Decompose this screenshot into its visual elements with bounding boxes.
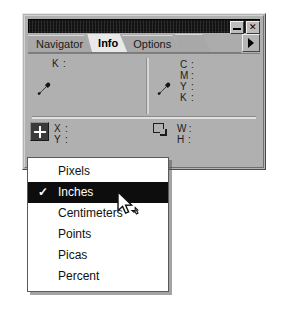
field-w-colon: :	[189, 123, 192, 134]
menu-item-picas[interactable]: Picas	[28, 245, 168, 266]
field-k-primary-label: K	[52, 58, 61, 69]
field-c-colon: :	[191, 59, 194, 70]
triangle-right-icon	[248, 38, 254, 48]
field-w: W:	[177, 123, 192, 134]
eyedropper-icon-primary	[32, 78, 54, 100]
field-m-colon: :	[191, 70, 194, 81]
field-h: H:	[177, 134, 192, 145]
menu-item-picas-label: Picas	[58, 248, 87, 262]
menu-item-pixels[interactable]: Pixels	[28, 161, 168, 182]
field-x-label: X	[54, 123, 63, 134]
field-y-pos: Y:	[54, 134, 68, 145]
field-h-colon: :	[188, 134, 191, 145]
units-dropdown-menu: Pixels ✓ Inches Centimeters Points Picas…	[27, 157, 169, 292]
menu-item-points-label: Points	[58, 227, 91, 241]
size-fields: W: H:	[177, 122, 192, 145]
menu-item-points[interactable]: Points	[28, 224, 168, 245]
field-k-primary-colon: :	[63, 58, 66, 69]
position-fields: X: Y:	[54, 122, 68, 145]
menu-item-centimeters[interactable]: Centimeters	[28, 203, 168, 224]
horizontal-divider	[32, 116, 256, 119]
menu-item-inches-label: Inches	[58, 185, 93, 199]
position-readout[interactable]: X: Y:	[30, 122, 68, 145]
tab-info[interactable]: Info	[87, 34, 127, 52]
menu-item-inches[interactable]: ✓ Inches	[28, 182, 168, 203]
minimize-button[interactable]	[230, 21, 244, 34]
field-c-label: C	[180, 59, 189, 70]
field-k-secondary: K:	[180, 92, 194, 103]
eyedropper-icon-secondary	[152, 78, 174, 100]
tab-navigator-label: Navigator	[36, 38, 83, 50]
tab-options-label: Options	[133, 38, 171, 50]
minimize-icon	[233, 28, 241, 30]
menu-item-centimeters-label: Centimeters	[58, 206, 123, 220]
field-w-label: W	[177, 123, 187, 134]
field-y-pos-colon: :	[65, 134, 68, 145]
checkmark-icon: ✓	[38, 182, 48, 203]
field-y-pos-label: Y	[54, 134, 63, 145]
field-x: X:	[54, 123, 68, 134]
first-color-fields: K:	[36, 58, 66, 69]
tab-info-label: Info	[98, 37, 118, 49]
marquee-icon-corner	[160, 129, 167, 136]
field-h-label: H	[177, 134, 186, 145]
titlebar-texture	[29, 20, 260, 33]
tab-strip-filler	[175, 34, 211, 52]
marquee-icon	[148, 122, 170, 145]
close-icon: ✕	[249, 23, 257, 32]
field-m: M:	[180, 70, 194, 81]
field-y: Y:	[180, 81, 194, 92]
field-m-label: M	[180, 70, 189, 81]
palette-titlebar[interactable]: ✕	[28, 19, 260, 33]
field-y-label: Y	[180, 81, 189, 92]
close-button[interactable]: ✕	[246, 21, 260, 34]
window-controls: ✕	[230, 20, 260, 34]
field-k-secondary-colon: :	[191, 92, 194, 103]
tab-list: Navigator Info Options	[28, 34, 241, 53]
tab-options[interactable]: Options	[122, 35, 180, 52]
second-color-readout[interactable]: C: M: Y: K:	[154, 58, 194, 103]
menu-item-pixels-label: Pixels	[58, 164, 90, 178]
field-k-secondary-label: K	[180, 92, 189, 103]
field-k-primary: K:	[52, 58, 66, 69]
palette-menu-button[interactable]	[242, 34, 260, 52]
info-palette-window: ✕ Navigator Info Options	[22, 13, 266, 170]
tab-navigator[interactable]: Navigator	[28, 35, 92, 52]
menu-item-percent[interactable]: Percent	[28, 266, 168, 287]
field-x-colon: :	[65, 123, 68, 134]
menu-item-percent-label: Percent	[58, 269, 99, 283]
palette-inner-frame: ✕ Navigator Info Options	[24, 15, 264, 168]
palette-tabstrip: Navigator Info Options	[28, 34, 260, 53]
field-y-colon: :	[191, 81, 194, 92]
info-panel-body: K: C:	[28, 53, 260, 164]
crosshair-icon-horizontal	[34, 131, 46, 133]
field-c: C:	[180, 59, 194, 70]
vertical-divider	[146, 58, 149, 114]
first-color-readout[interactable]: K:	[36, 58, 66, 69]
size-readout[interactable]: W: H:	[148, 122, 192, 145]
units-selector-button[interactable]	[30, 122, 49, 141]
